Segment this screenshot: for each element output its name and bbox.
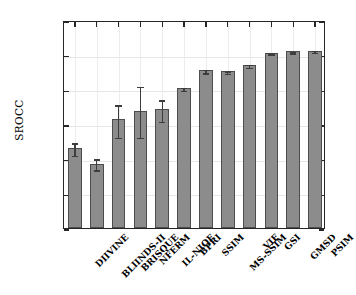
x-axis-tick-label: NFERM	[158, 232, 193, 267]
x-axis-tick-label: DIIVINE	[93, 232, 130, 269]
horizontal-gridline	[64, 161, 324, 162]
y-axis-tick	[64, 229, 69, 230]
x-axis-tick	[227, 22, 228, 27]
error-bar-cap-lower	[312, 53, 318, 54]
x-axis-tick	[205, 22, 206, 27]
error-bar-line	[96, 160, 97, 171]
x-axis-tick-label: SSIM	[220, 232, 246, 258]
bar	[199, 70, 213, 228]
error-bar-cap-lower	[290, 53, 296, 54]
x-axis-tick-label: MS-SSIM	[248, 232, 289, 273]
error-bar-line	[74, 144, 75, 156]
error-bar-cap-lower	[159, 122, 165, 123]
plot-area	[63, 21, 325, 229]
error-bar-cap-upper	[246, 65, 252, 66]
error-bar-cap-lower	[137, 138, 143, 139]
error-bar-cap-upper	[72, 143, 78, 144]
x-axis-tick-label: VIF	[261, 232, 281, 252]
x-axis-tick	[74, 22, 75, 27]
y-axis-tick	[319, 21, 324, 22]
x-axis-tick	[96, 22, 97, 27]
bar	[308, 51, 322, 228]
horizontal-gridline	[64, 126, 324, 127]
error-bar-cap-upper	[115, 105, 121, 106]
error-bar-cap-lower	[94, 170, 100, 171]
x-axis-tick	[293, 22, 294, 27]
error-bar-cap-lower	[268, 55, 274, 56]
x-axis-tick	[118, 22, 119, 27]
x-axis-tick	[271, 22, 272, 27]
x-axis-tick-label: GMSD	[309, 232, 339, 262]
x-axis-tick	[140, 22, 141, 27]
error-bar-cap-upper	[94, 159, 100, 160]
bar	[265, 53, 279, 228]
bar	[90, 164, 104, 228]
x-axis-tick	[314, 22, 315, 27]
y-axis-tick	[64, 91, 69, 92]
error-bar-line	[162, 101, 163, 122]
error-bar-cap-upper	[203, 70, 209, 71]
bar	[155, 109, 169, 228]
x-axis-tick-labels: DIIVINEBLIINDS-IIBRISQUENFERMIL-NIQEBPRI…	[63, 229, 325, 295]
x-axis-tick-label: IL-NIQE	[180, 232, 216, 268]
error-bar-line	[118, 106, 119, 139]
bar	[286, 51, 300, 228]
y-axis-title: SROCC	[8, 0, 30, 240]
error-bar-cap-upper	[159, 100, 165, 101]
y-axis-tick	[64, 125, 69, 126]
x-axis-tick-label: BRISQUE	[139, 232, 180, 273]
x-axis-tick-label: BLIINDS-II	[120, 232, 168, 280]
x-axis-tick	[249, 22, 250, 27]
error-bar-cap-lower	[181, 91, 187, 92]
y-axis-tick	[64, 56, 69, 57]
error-bar-cap-upper	[225, 71, 231, 72]
bar	[243, 65, 257, 228]
error-bar-cap-lower	[203, 73, 209, 74]
error-bar-line	[140, 87, 141, 138]
x-axis-tick-label: GSI	[283, 232, 303, 252]
y-axis-tick	[319, 229, 324, 230]
bar	[177, 88, 191, 228]
bar	[221, 71, 235, 228]
horizontal-gridline	[64, 57, 324, 58]
error-bar-cap-lower	[72, 156, 78, 157]
x-axis-tick	[162, 22, 163, 27]
error-bar-cap-upper	[137, 87, 143, 88]
x-axis-tick-label: BPRI	[198, 232, 224, 258]
y-axis-title-text: SROCC	[13, 99, 25, 140]
y-axis-tick	[64, 21, 69, 22]
error-bar-cap-lower	[225, 74, 231, 75]
error-bar-cap-lower	[246, 68, 252, 69]
bar	[68, 148, 82, 228]
horizontal-gridline	[64, 91, 324, 92]
error-bar-cap-lower	[115, 138, 121, 139]
error-bar-cap-upper	[181, 88, 187, 89]
x-axis-tick-label: PSIM	[329, 232, 355, 258]
x-axis-tick	[183, 22, 184, 27]
